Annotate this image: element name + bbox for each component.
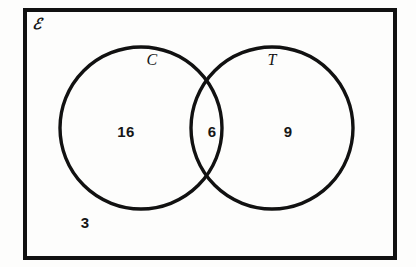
set-label-c: C (147, 52, 158, 68)
set-label-t: T (267, 52, 276, 68)
universal-set-label: ℰ (32, 17, 43, 32)
venn-diagram-figure: ℰ C T 16 6 9 3 (0, 0, 416, 267)
set-circle-c (60, 47, 222, 209)
c-only-count: 16 (117, 124, 134, 139)
outside-count: 3 (81, 215, 90, 230)
intersection-count: 6 (208, 124, 217, 139)
t-only-count: 9 (284, 124, 293, 139)
